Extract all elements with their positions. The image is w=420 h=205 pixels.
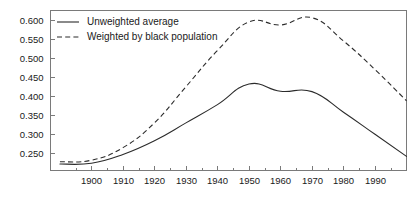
series-line-1 [60, 83, 407, 164]
x-tick-label: 1980 [333, 175, 354, 186]
x-tick-label: 1930 [176, 175, 197, 186]
chart-legend: Unweighted averageWeighted by black popu… [57, 16, 217, 42]
x-tick-label: 1900 [81, 175, 102, 186]
line-chart: 0.2500.3000.3500.4000.4500.5000.5500.600… [0, 0, 420, 205]
y-tick-label: 0.250 [20, 148, 44, 159]
y-tick-label: 0.300 [20, 129, 44, 140]
y-tick-label: 0.500 [20, 53, 44, 64]
y-tick-label: 0.350 [20, 110, 44, 121]
x-tick-label: 1940 [207, 175, 228, 186]
legend-label: Unweighted average [87, 16, 179, 27]
x-tick-label: 1950 [239, 175, 260, 186]
y-tick-label: 0.400 [20, 91, 44, 102]
y-tick-label: 0.600 [20, 15, 44, 26]
chart-container: 0.2500.3000.3500.4000.4500.5000.5500.600… [0, 0, 420, 205]
y-axis-ticks [51, 21, 55, 154]
x-tick-label: 1970 [302, 175, 323, 186]
y-axis-tick-labels: 0.2500.3000.3500.4000.4500.5000.5500.600 [20, 15, 44, 159]
x-tick-label: 1910 [113, 175, 134, 186]
y-tick-label: 0.450 [20, 72, 44, 83]
x-tick-label: 1960 [270, 175, 291, 186]
x-tick-label: 1990 [365, 175, 386, 186]
y-tick-label: 0.550 [20, 34, 44, 45]
x-tick-label: 1920 [144, 175, 165, 186]
x-axis-tick-labels: 1900191019201930194019501960197019801990 [81, 175, 386, 186]
legend-label: Weighted by black population [87, 31, 217, 42]
